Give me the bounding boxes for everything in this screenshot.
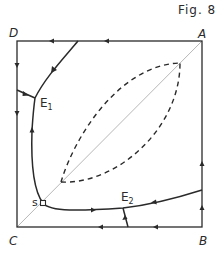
arrow-icon <box>49 39 54 44</box>
arrow-icon <box>200 161 205 166</box>
e1-main: E <box>40 96 48 110</box>
arrow-icon <box>30 127 35 133</box>
trajectory-s-to-e1 <box>32 98 43 203</box>
trajectory-top-to-e1 <box>35 41 78 98</box>
corner-label-d: D <box>9 27 18 39</box>
arrow-icon <box>153 225 158 230</box>
arrow-icon <box>15 111 20 116</box>
phase-diagram <box>0 0 224 258</box>
corner-label-a: A <box>198 28 206 40</box>
arrow-icon <box>98 225 103 230</box>
arrow-icon <box>23 91 30 96</box>
corner-label-b: B <box>199 235 207 247</box>
corner-label-c: C <box>9 235 17 247</box>
e2-main: E <box>121 190 129 204</box>
arrow-icon <box>15 63 20 68</box>
saddle-point-marker <box>41 201 46 206</box>
e1-subscript: 1 <box>48 103 53 112</box>
arrow-icon <box>104 39 109 44</box>
point-label-e2: E2 <box>121 191 134 206</box>
arrow-icon <box>91 208 96 213</box>
point-label-e1: E1 <box>40 97 53 112</box>
point-label-s: s <box>32 197 38 208</box>
arrow-icon <box>200 205 205 210</box>
figure-title: Fig. 8 <box>178 4 216 16</box>
diagonal-line <box>17 41 202 227</box>
e2-subscript: 2 <box>129 197 134 206</box>
